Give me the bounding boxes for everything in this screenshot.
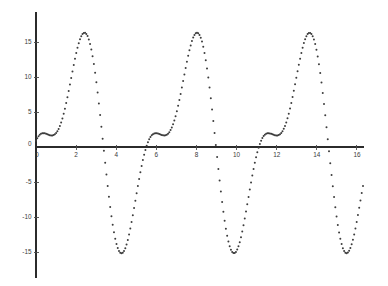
data-point <box>236 249 238 251</box>
data-point <box>56 130 58 132</box>
data-point <box>36 137 38 139</box>
data-point <box>122 252 124 254</box>
data-point <box>110 215 112 217</box>
data-point <box>281 130 283 132</box>
data-point <box>298 64 300 66</box>
data-point <box>315 49 317 51</box>
data-point <box>59 125 61 127</box>
data-point <box>92 55 94 57</box>
data-point <box>339 238 341 240</box>
data-point <box>142 159 144 161</box>
data-point <box>117 247 119 249</box>
data-point <box>260 140 262 142</box>
data-point <box>123 250 125 252</box>
data-point <box>209 87 211 89</box>
data-point <box>89 43 91 45</box>
y-tick-label: 15 <box>24 38 32 45</box>
data-point <box>141 165 143 167</box>
data-point <box>207 77 209 79</box>
data-point <box>177 105 179 107</box>
data-point <box>221 201 223 203</box>
data-point <box>171 126 173 128</box>
data-point <box>108 196 110 198</box>
data-point <box>239 241 241 243</box>
data-point <box>255 156 257 158</box>
data-point <box>327 138 329 140</box>
data-point <box>178 99 180 101</box>
data-point <box>292 96 294 98</box>
data-point <box>109 206 111 208</box>
data-point <box>283 128 285 130</box>
data-point <box>129 228 131 230</box>
data-point <box>206 67 208 69</box>
data-point <box>182 80 184 82</box>
data-point <box>337 224 339 226</box>
data-point <box>73 64 75 66</box>
data-point <box>245 211 247 213</box>
data-point <box>60 122 62 124</box>
data-point <box>136 192 138 194</box>
data-point <box>112 224 114 226</box>
data-point <box>107 185 109 187</box>
data-point <box>191 40 193 42</box>
data-point <box>74 58 76 60</box>
data-point <box>333 196 335 198</box>
data-point <box>200 37 202 39</box>
data-point <box>354 227 356 229</box>
data-point <box>144 149 146 151</box>
data-point <box>75 52 77 54</box>
data-point <box>100 126 102 128</box>
data-point <box>98 103 100 105</box>
data-point <box>124 247 126 249</box>
data-point <box>104 162 106 164</box>
data-point <box>253 168 255 170</box>
data-point <box>323 103 325 105</box>
data-point <box>80 35 82 37</box>
data-point <box>293 90 295 92</box>
data-point <box>113 231 115 233</box>
y-tick-label-zero: 0 <box>28 140 32 147</box>
data-point <box>128 234 130 236</box>
data-point <box>302 47 304 49</box>
data-point <box>186 61 188 63</box>
data-point <box>349 247 351 249</box>
plot-canvas: 0246810121416-15-10-5510150 <box>0 0 388 286</box>
data-point <box>288 113 290 115</box>
data-point <box>237 245 239 247</box>
data-point <box>222 211 224 213</box>
data-point <box>127 239 129 241</box>
data-point <box>183 74 185 76</box>
data-series-group <box>35 32 364 254</box>
data-point <box>313 39 315 41</box>
data-point <box>69 83 71 85</box>
data-point <box>285 121 287 123</box>
data-point <box>305 35 307 37</box>
data-point <box>94 72 96 74</box>
data-point <box>132 214 134 216</box>
data-point <box>326 126 328 128</box>
data-point <box>205 59 207 61</box>
data-point <box>256 151 258 153</box>
data-point <box>318 63 320 65</box>
data-point <box>220 191 222 193</box>
data-point <box>259 143 261 145</box>
data-point <box>334 206 336 208</box>
data-point <box>290 102 292 104</box>
data-point <box>192 37 194 39</box>
data-point <box>289 108 291 110</box>
data-point <box>362 185 364 187</box>
data-point <box>198 34 200 36</box>
data-point <box>284 125 286 127</box>
x-tick-label: 14 <box>313 151 321 158</box>
data-point <box>312 35 314 37</box>
data-point <box>214 132 216 134</box>
data-point <box>215 144 217 146</box>
data-point <box>251 175 253 177</box>
data-point <box>219 179 221 181</box>
data-point <box>287 117 289 119</box>
data-point <box>187 55 189 57</box>
data-point <box>299 58 301 60</box>
y-tick-label: -10 <box>22 213 32 220</box>
data-point <box>71 70 73 72</box>
data-point <box>180 93 182 95</box>
